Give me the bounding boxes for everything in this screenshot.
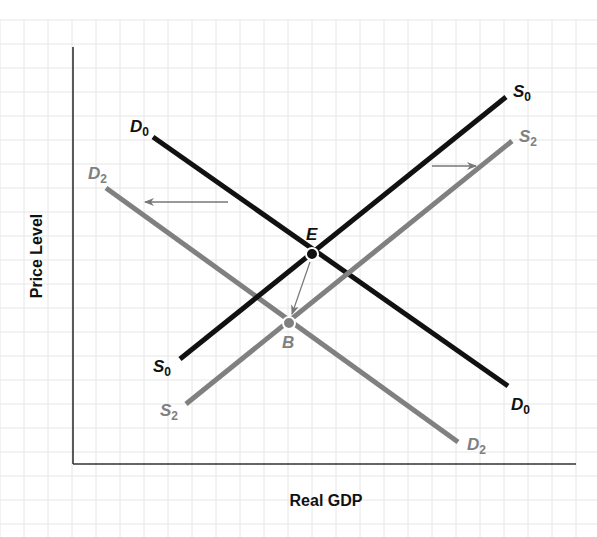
label-point-b: B bbox=[282, 333, 294, 352]
label-point-e: E bbox=[306, 225, 318, 244]
label-d2-top: D2 bbox=[88, 164, 107, 186]
label-s2-top: S2 bbox=[519, 127, 537, 149]
curve-s0 bbox=[180, 97, 506, 359]
point-b bbox=[283, 317, 295, 329]
y-axis-title: Price Level bbox=[28, 214, 45, 299]
x-axis-title: Real GDP bbox=[290, 492, 363, 509]
point-e bbox=[306, 248, 318, 260]
label-d0-bottom: D0 bbox=[511, 395, 530, 417]
label-d0-top: D0 bbox=[130, 117, 149, 139]
diagram-canvas: D0 D2 S0 S2 S0 S2 D0 D2 E B Real GDP Pri… bbox=[0, 0, 597, 537]
label-s0-bottom: S0 bbox=[153, 357, 171, 379]
grid bbox=[0, 20, 597, 537]
label-s0-top: S0 bbox=[513, 82, 531, 104]
label-d2-bottom: D2 bbox=[467, 435, 486, 457]
ad-as-diagram: D0 D2 S0 S2 S0 S2 D0 D2 E B Real GDP Pri… bbox=[0, 0, 597, 537]
